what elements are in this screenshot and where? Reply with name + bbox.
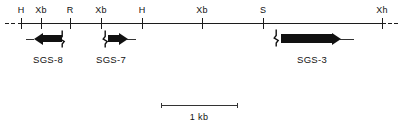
gene-arrowhead-right [332, 33, 341, 45]
gene-start-cap-icon [273, 29, 280, 51]
gene-tail-line [340, 39, 354, 40]
scale-bar-cap-left [161, 103, 162, 108]
restriction-map-figure: HXbRXbHXbSXh SGS-8SGS-7SGS-3 1 kb [0, 0, 401, 127]
gene-shaft [281, 34, 332, 43]
scale-bar-label: 1 kb [190, 113, 209, 122]
scale-bar-cap-right [237, 103, 238, 108]
gene-arrow-sgs-3: SGS-3 [0, 0, 401, 60]
gene-label: SGS-3 [297, 55, 327, 65]
scale-bar-line [161, 105, 237, 106]
